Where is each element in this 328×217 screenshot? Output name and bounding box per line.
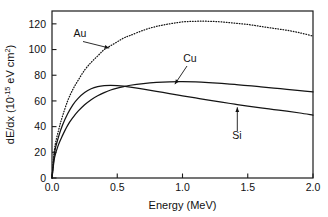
y-tick-label: 40 [34,120,46,132]
plot-frame [52,11,313,178]
y-tick-label: 20 [34,146,46,158]
x-tick-label: 1.5 [240,181,255,193]
y-tick-label: 80 [34,69,46,81]
y-tick-label: 120 [28,18,46,30]
x-tick-label: 0.0 [45,181,60,193]
y-tick-label: 60 [34,95,46,107]
x-axis-label: Energy (MeV) [149,199,217,211]
y-tick-label: 0 [40,172,46,184]
chart-figure: 0.00.51.01.52.0020406080100120Energy (Me… [0,0,328,217]
series-label-au: Au [74,27,87,39]
x-tick-label: 2.0 [306,181,321,193]
x-tick-label: 1.0 [175,181,190,193]
y-axis-label: dE/dx (10-15 eV cm2) [3,45,16,144]
x-tick-label: 0.5 [110,181,125,193]
cu-arrow-head [175,79,179,84]
si-arrow-head [235,107,239,112]
y-tick-label: 100 [28,43,46,55]
series-label-cu: Cu [183,52,197,64]
dedx-vs-energy-chart: 0.00.51.01.52.0020406080100120Energy (Me… [0,0,328,217]
